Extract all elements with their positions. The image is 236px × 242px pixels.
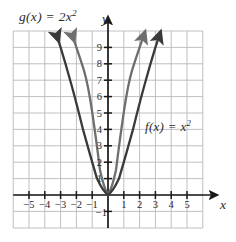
- parabola-comparison-figure: g(x) = 2x2 f(x) = x2 y x −5 −4 −3 −2 −1 …: [0, 0, 236, 242]
- y-axis-label: y: [102, 12, 108, 26]
- x-tick-label: 3: [147, 200, 163, 211]
- y-tick-label: 1: [88, 174, 102, 185]
- annotation-g-exponent: 2: [72, 8, 77, 18]
- annotation-g-function: g(x) = 2x2: [19, 10, 77, 24]
- x-axis-label: x: [220, 198, 226, 212]
- y-tick-label: 6: [88, 92, 102, 103]
- x-tick-label: −4: [37, 200, 53, 211]
- x-tick-label: 4: [163, 200, 179, 211]
- annotation-f-exponent: 2: [186, 118, 191, 128]
- x-tick-label: −3: [53, 200, 69, 211]
- annotation-g-text: g(x) = 2x: [19, 9, 72, 24]
- x-tick-label: 1: [116, 200, 132, 211]
- annotation-f-text: f(x) = x: [145, 119, 186, 134]
- annotation-f-function: f(x) = x2: [145, 120, 191, 133]
- x-tick-label: −2: [68, 200, 84, 211]
- y-tick-label: 3: [88, 141, 102, 152]
- y-tick-label: 4: [88, 125, 102, 136]
- y-tick-label: 5: [88, 109, 102, 120]
- x-tick-label: −5: [21, 200, 37, 211]
- x-tick-label: 2: [132, 200, 148, 211]
- y-negative-tick-label: −1: [93, 208, 107, 219]
- y-tick-label: 2: [88, 158, 102, 169]
- y-tick-label: 8: [88, 59, 102, 70]
- y-tick-label: 7: [88, 76, 102, 87]
- x-tick-label: 5: [179, 200, 195, 211]
- y-tick-label: 9: [88, 43, 102, 54]
